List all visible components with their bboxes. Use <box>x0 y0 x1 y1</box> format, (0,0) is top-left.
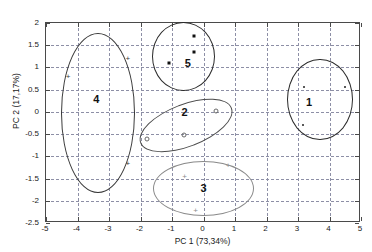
y-tick-mark <box>355 67 359 68</box>
x-tick-mark <box>361 23 362 27</box>
y-tick-mark <box>355 112 359 113</box>
x-axis-label: PC 1 (73,34%) <box>45 236 360 246</box>
cluster-ellipse-2 <box>133 88 239 163</box>
cluster-label-5: 5 <box>185 57 191 69</box>
x-tick-label: 0 <box>200 224 204 233</box>
x-tick-mark <box>141 23 142 27</box>
x-tick-label: -5 <box>41 224 48 233</box>
x-tick-mark <box>204 23 205 27</box>
y-tick-mark <box>46 67 50 68</box>
x-tick-mark <box>235 217 236 221</box>
x-tick-mark <box>109 217 110 221</box>
data-point-plus <box>65 73 72 80</box>
x-tick-label: -2 <box>136 224 143 233</box>
cluster-label-4: 4 <box>93 93 99 105</box>
x-tick-mark <box>141 217 142 221</box>
data-point-plus <box>181 173 188 180</box>
y-tick-mark <box>355 23 359 24</box>
y-tick-mark <box>46 134 50 135</box>
x-tick-label: -3 <box>104 224 111 233</box>
y-tick-mark <box>46 90 50 91</box>
x-tick-label: 1 <box>232 224 236 233</box>
cluster-ellipse-1 <box>287 59 353 141</box>
x-tick-label: -1 <box>167 224 174 233</box>
data-point-circle <box>145 137 150 142</box>
x-tick-mark <box>46 217 47 221</box>
x-tick-mark <box>298 23 299 27</box>
x-tick-mark <box>330 217 331 221</box>
x-tick-label: 5 <box>358 224 362 233</box>
y-tick-mark <box>355 156 359 157</box>
y-axis-label: PC 2 (17,17%) <box>11 41 21 161</box>
y-tick-mark <box>355 45 359 46</box>
x-tick-label: 3 <box>295 224 299 233</box>
x-tick-mark <box>78 23 79 27</box>
y-tick-mark <box>46 23 50 24</box>
y-tick-label: 2 <box>6 18 39 27</box>
data-point-plus <box>192 206 199 213</box>
data-point-plus <box>124 54 131 61</box>
x-tick-mark <box>298 217 299 221</box>
x-tick-mark <box>204 217 205 221</box>
y-tick-label: -1.5 <box>6 173 39 182</box>
data-point-square <box>167 62 170 65</box>
x-tick-mark <box>78 217 79 221</box>
y-tick-mark <box>355 134 359 135</box>
y-tick-mark <box>46 112 50 113</box>
data-point-square <box>193 35 196 38</box>
y-tick-label: -2 <box>6 195 39 204</box>
cluster-label-3: 3 <box>200 182 206 194</box>
data-point-circle <box>181 133 186 138</box>
data-point-circle <box>214 109 219 114</box>
x-tick-mark <box>172 217 173 221</box>
pca-score-plot-figure: 12345 -5-4-3-2-1012345 21.510.50-0.5-1-1… <box>0 0 372 252</box>
data-point-square <box>193 50 196 53</box>
x-tick-mark <box>109 23 110 27</box>
y-tick-mark <box>355 90 359 91</box>
data-point-dot <box>302 124 304 126</box>
y-tick-label: -2.5 <box>6 218 39 227</box>
y-tick-mark <box>46 201 50 202</box>
plot-area: 12345 <box>45 22 360 222</box>
data-point-dot <box>344 86 346 88</box>
y-tick-mark <box>46 156 50 157</box>
gridline-vertical <box>141 23 142 221</box>
x-tick-mark <box>235 23 236 27</box>
x-tick-label: 4 <box>326 224 330 233</box>
y-tick-mark <box>46 179 50 180</box>
y-tick-mark <box>355 201 359 202</box>
data-point-plus <box>225 162 232 169</box>
x-tick-mark <box>267 217 268 221</box>
cluster-label-2: 2 <box>182 106 188 118</box>
data-point-dot <box>303 86 305 88</box>
x-tick-mark <box>361 217 362 221</box>
x-tick-label: 2 <box>263 224 267 233</box>
y-tick-mark <box>46 45 50 46</box>
cluster-ellipse-5 <box>152 22 215 91</box>
data-point-plus <box>124 160 131 167</box>
x-tick-mark <box>267 23 268 27</box>
cluster-label-1: 1 <box>306 96 312 108</box>
x-tick-label: -4 <box>73 224 80 233</box>
gridline-vertical <box>267 23 268 221</box>
x-tick-mark <box>330 23 331 27</box>
y-tick-mark <box>355 179 359 180</box>
